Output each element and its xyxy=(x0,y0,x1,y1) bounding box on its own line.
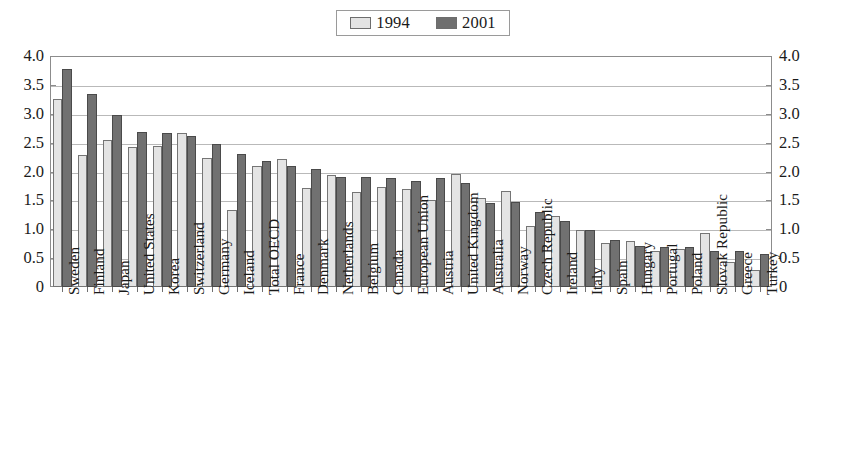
x-axis-category-label: Slovak Republic xyxy=(715,194,730,295)
x-axis-tick-mark xyxy=(436,287,437,292)
legend-entry-1994: 1994 xyxy=(350,15,410,32)
x-axis-category-label: Spain xyxy=(615,260,630,295)
x-axis-tick-mark xyxy=(336,287,337,292)
y-axis-tick-label-left: 3.5 xyxy=(0,77,44,94)
y-axis-tick-label-left: 4.0 xyxy=(0,48,44,65)
x-axis-category-label: Japan xyxy=(117,260,132,295)
x-axis-tick-mark xyxy=(735,287,736,292)
x-axis-tick-mark xyxy=(685,287,686,292)
bar-chart: 1994 2001 4.04.03.53.53.03.02.52.52.02.0… xyxy=(0,0,841,465)
x-axis-category-label: Greece xyxy=(740,252,755,295)
x-axis-category-label: Finland xyxy=(92,248,107,295)
x-axis-tick-mark xyxy=(361,287,362,292)
x-axis-category-label: Switzerland xyxy=(192,222,207,295)
bar-group xyxy=(601,56,620,287)
x-axis-tick-mark xyxy=(660,287,661,292)
x-axis-category-label: United Kingdom xyxy=(466,192,481,295)
x-axis-tick-mark xyxy=(535,287,536,292)
x-axis-category-label: Italy xyxy=(590,267,605,295)
y-axis-tick-label-right: 0 xyxy=(779,279,835,296)
y-axis-tick-label-right: 1.0 xyxy=(779,221,835,238)
x-axis-category-label: Portugal xyxy=(665,243,680,295)
y-axis-tick-label-left: 2.0 xyxy=(0,164,44,181)
legend-label-1994: 1994 xyxy=(376,15,410,32)
x-axis-category-label: Belgium xyxy=(366,243,381,295)
x-axis-category-label: Netherlands xyxy=(341,221,356,295)
x-axis-tick-mark xyxy=(262,287,263,292)
x-axis-tick-mark xyxy=(112,287,113,292)
x-axis-tick-mark xyxy=(585,287,586,292)
x-axis-category-label: Korea xyxy=(167,258,182,295)
x-axis-category-label: Austria xyxy=(441,250,456,295)
x-axis-tick-mark xyxy=(486,287,487,292)
y-axis-tick-label-right: 4.0 xyxy=(779,48,835,65)
y-axis-tick-label-left: 3.0 xyxy=(0,106,44,123)
x-axis-category-label: France xyxy=(292,254,307,295)
y-axis-tick-label-left: 1.5 xyxy=(0,192,44,209)
x-axis-tick-mark xyxy=(87,287,88,292)
x-axis-tick-mark xyxy=(212,287,213,292)
y-axis-tick-label-right: 0.5 xyxy=(779,250,835,267)
legend-swatch-1994-icon xyxy=(350,17,371,29)
x-axis-tick-mark xyxy=(187,287,188,292)
x-axis-category-label: Norway xyxy=(516,246,531,295)
x-axis-tick-mark xyxy=(386,287,387,292)
x-axis-tick-mark xyxy=(162,287,163,292)
x-axis-tick-mark xyxy=(760,287,761,292)
x-axis-category-label: Hungary xyxy=(640,242,655,295)
y-axis-tick-label-right: 1.5 xyxy=(779,192,835,209)
x-axis-category-label: European Union xyxy=(416,195,431,295)
legend-swatch-2001-icon xyxy=(436,17,457,29)
x-axis-tick-mark xyxy=(610,287,611,292)
x-axis-tick-mark xyxy=(237,287,238,292)
x-axis-tick-mark xyxy=(287,287,288,292)
x-axis-tick-mark xyxy=(62,287,63,292)
y-axis-tick-label-right: 3.5 xyxy=(779,77,835,94)
legend-entry-2001: 2001 xyxy=(436,15,496,32)
x-axis-tick-mark xyxy=(137,287,138,292)
x-axis-category-label: Iceland xyxy=(242,250,257,295)
x-axis-category-label: Ireland xyxy=(565,252,580,295)
x-axis-tick-mark xyxy=(411,287,412,292)
x-axis-category-label: Denmark xyxy=(316,238,331,295)
y-axis-tick-label-left: 1.0 xyxy=(0,221,44,238)
x-axis-category-label: Total OECD xyxy=(267,219,282,295)
x-axis-tick-mark xyxy=(461,287,462,292)
y-axis-tick-label-right: 2.0 xyxy=(779,164,835,181)
x-axis-tick-mark xyxy=(560,287,561,292)
y-axis-tick-label-right: 2.5 xyxy=(779,135,835,152)
x-axis-category-label: Germany xyxy=(217,238,232,295)
x-axis-tick-mark xyxy=(511,287,512,292)
x-axis-category-label: Turkey xyxy=(765,252,780,295)
x-axis-tick-mark xyxy=(311,287,312,292)
x-axis-tick-mark xyxy=(710,287,711,292)
legend-label-2001: 2001 xyxy=(462,15,496,32)
x-axis-category-label: United States xyxy=(142,213,157,295)
x-axis-category-label: Australia xyxy=(491,239,506,295)
y-axis-tick-label-left: 0 xyxy=(0,279,44,296)
y-axis-tick-label-right: 3.0 xyxy=(779,106,835,123)
y-axis-tick-label-left: 2.5 xyxy=(0,135,44,152)
x-axis-tick-mark xyxy=(635,287,636,292)
chart-legend: 1994 2001 xyxy=(336,10,510,36)
x-axis-category-label: Czech Republic xyxy=(540,198,555,295)
x-axis-category-label: Canada xyxy=(391,249,406,295)
y-axis-tick-label-left: 0.5 xyxy=(0,250,44,267)
bar xyxy=(53,99,63,287)
x-axis-category-label: Poland xyxy=(690,253,705,295)
x-axis-category-label: Sweden xyxy=(67,247,82,295)
